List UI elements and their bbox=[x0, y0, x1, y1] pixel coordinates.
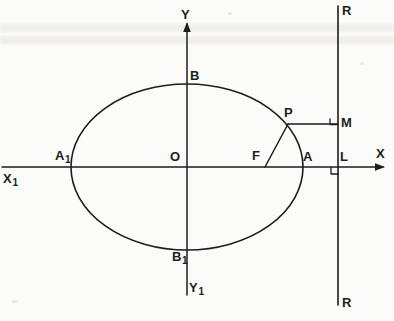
y-axis-arrowhead bbox=[183, 22, 191, 32]
label-origin-O: O bbox=[170, 150, 180, 163]
label-foot-M: M bbox=[341, 116, 352, 129]
label-point-P: P bbox=[284, 106, 293, 119]
label-point-L: L bbox=[340, 150, 348, 163]
label-focus-F: F bbox=[252, 149, 260, 162]
ellipse-diagram: Y Y1 X X1 O A1 A B B1 F P M L R R bbox=[0, 0, 394, 321]
label-covertex-top-B: B bbox=[190, 69, 200, 82]
focal-radius-segment-FP bbox=[265, 124, 288, 167]
label-vertex-left-A1: A1 bbox=[55, 149, 71, 165]
label-y-axis-negative: Y1 bbox=[189, 281, 204, 297]
label-directrix-bottom-R: R bbox=[342, 296, 352, 309]
label-covertex-bottom-B1: B1 bbox=[172, 250, 188, 266]
label-x-axis-negative: X1 bbox=[3, 172, 18, 188]
right-angle-mark-at-L bbox=[331, 168, 338, 175]
x-axis-arrowhead bbox=[375, 163, 385, 171]
label-y-axis-positive: Y bbox=[181, 8, 190, 21]
label-directrix-top-R: R bbox=[342, 4, 352, 17]
label-x-axis-positive: X bbox=[376, 147, 385, 160]
label-vertex-right-A: A bbox=[303, 150, 313, 163]
